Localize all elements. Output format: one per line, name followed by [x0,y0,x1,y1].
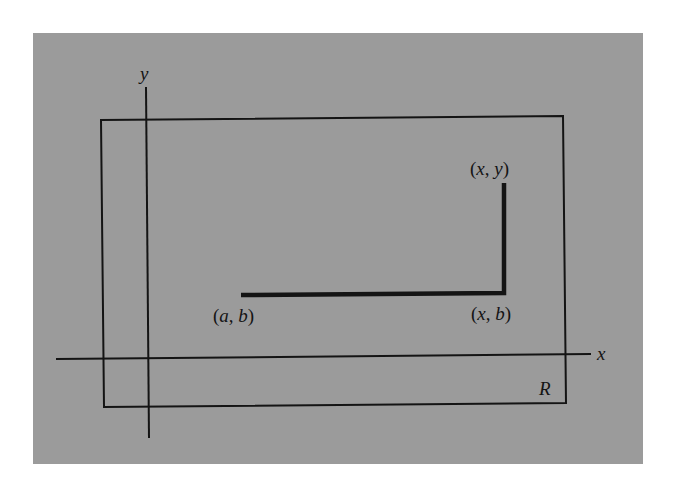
path-a-b-to-x-y [241,183,504,295]
paren-close: ) [503,158,509,180]
x-axis-label: x [596,343,606,364]
coord-2: y [492,158,503,179]
separator: , [486,303,496,324]
coord-2: b [238,305,248,326]
region-r-label: R [538,378,551,399]
coord-2: b [495,303,505,324]
paren-close: ) [505,303,511,325]
point-x-b-label: (x, b) [471,303,511,325]
paren-close: ) [248,305,254,327]
x-axis-line [56,354,591,359]
point-x-y-label: (x, y) [470,158,509,180]
separator: , [485,158,495,179]
y-axis-line [146,87,149,438]
point-a-b-label: (a, b) [213,305,254,327]
coord-1: a [219,305,229,326]
y-axis-label: y [138,63,149,84]
separator: , [229,305,239,326]
coordinate-diagram: y x R (a, b) (x, b) (x, y) [0,0,673,495]
